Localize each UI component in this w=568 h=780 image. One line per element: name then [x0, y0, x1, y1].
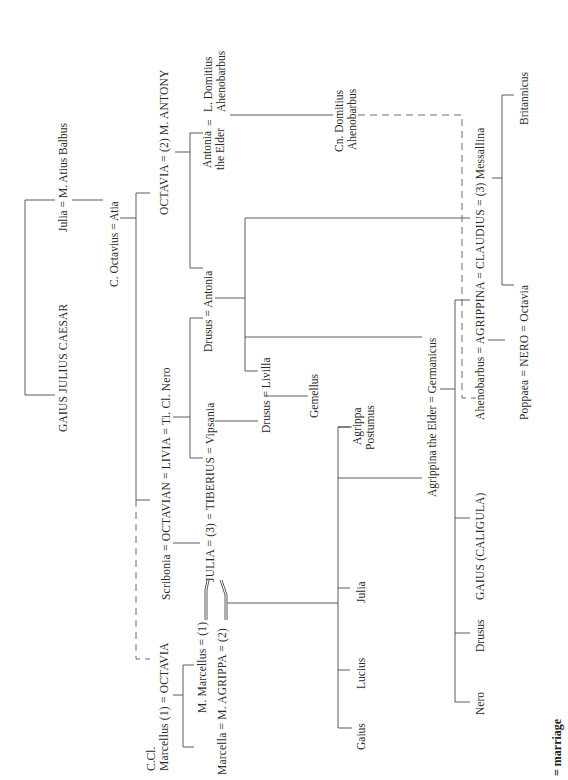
family-tree-diagram: Julia = M. Atius Balbus GAIUS JULIUS CAE… [0, 0, 568, 780]
drusus-antonia-children-bracket [245, 218, 258, 371]
octavia-dashed-line [136, 500, 150, 659]
marcellus-children-bracket [183, 665, 194, 747]
cn-domitius-dashed-line [358, 115, 476, 398]
julia-balbus: Julia = M. Atius Balbus [57, 122, 69, 232]
caesar-julia-sibling-line [25, 200, 55, 395]
claudius-row: Ahenobarbus = AGRIPPINA = CLAUDIUS = (3)… [474, 127, 487, 420]
legend-marriage: = marriage [550, 718, 564, 776]
drusus-livilla: Drusus = Livilla [260, 358, 272, 433]
julia-marriage-2-b [222, 580, 227, 620]
l-domitius-line1: L. Domitius [202, 56, 214, 112]
gaius: Gaius [355, 723, 367, 750]
labels: Julia = M. Atius Balbus GAIUS JULIUS CAE… [57, 50, 564, 776]
octavia-antony: OCTAVIA = (2) M. ANTONY [158, 69, 171, 215]
tiberius-row: JULIA = (3) = TIBERIUS = Vipsania [204, 402, 217, 582]
ccl: C.Cl. [145, 747, 157, 771]
drusus-antonia: Drusus = Antonia [202, 271, 214, 352]
cn-domitius-line2: Ahenobarbus [346, 88, 358, 150]
antonia-elder-eq: = [204, 120, 216, 127]
julia-marriage-1-b [207, 580, 209, 620]
nero-row: Poppaea = NERO = Octavia [518, 285, 531, 420]
m-marcellus: M. Marcellus = (1) [196, 622, 209, 713]
l-domitius-line2: Ahenobarbus [215, 50, 227, 112]
octavius-atia: C. Octavius = Atia [108, 201, 120, 287]
agrippa-postumus-line2: Postumus [364, 405, 376, 450]
drusus-child: Drusus [474, 619, 486, 652]
nero-child: Nero [474, 692, 486, 715]
gemellus: Gemellus [308, 373, 320, 418]
julia-child: Julia [355, 581, 367, 603]
germanicus-children-bracket [455, 300, 470, 702]
cn-domitius-line1: Cn. Domitius [333, 89, 345, 152]
agrippa-children-bracket [338, 427, 352, 728]
agrippa-postumus-line1: Agrippa [351, 407, 364, 445]
octavius-children-bracket [136, 193, 150, 500]
antonia-elder-line1: Antonia [201, 131, 213, 168]
lucius: Lucius [355, 657, 367, 689]
caligula: GAIUS (CALIGULA) [474, 492, 487, 600]
marcellus-octavia: Marcellus (1) = OCTAVIA [158, 642, 171, 771]
octavian-row: Scribonia = OCTAVIAN = LIVIA = Ti. Cl. N… [160, 367, 172, 600]
messallina-children-bracket [502, 95, 514, 285]
britannicus: Britannicus [518, 71, 530, 125]
caesar: GAIUS JULIUS CAESAR [57, 303, 69, 432]
marcella-agrippa: Marcella = M. AGRIPPA = (2) [216, 628, 229, 775]
antonia-elder-line2: the Elder [214, 128, 226, 170]
agrippina-germanicus: Agrippina the Elder = Germanicus [426, 337, 439, 497]
